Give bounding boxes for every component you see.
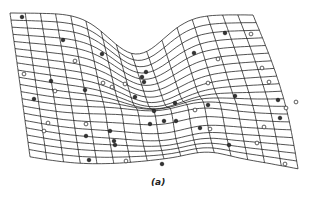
open-control-point [101,81,105,85]
filled-control-point [133,95,137,99]
filled-control-point [144,70,148,74]
filled-control-point [20,15,24,19]
filled-control-point [83,88,87,92]
open-control-point [208,127,212,131]
open-control-point [255,141,259,145]
open-control-point [42,129,46,133]
mesh-row-line [15,49,269,86]
open-control-point [124,159,128,163]
filled-control-point [113,143,117,147]
filled-control-point [108,129,112,133]
open-control-point [53,89,57,93]
filled-control-point [192,51,196,55]
filled-control-point [142,80,146,84]
mesh-column-line [162,40,198,153]
filled-control-point [223,31,227,35]
filled-control-point [61,38,65,42]
filled-control-point [173,101,177,105]
open-control-point [216,57,220,61]
open-control-point [193,108,197,112]
open-control-point [262,125,266,129]
open-control-point [284,106,288,110]
open-control-point [267,80,271,84]
filled-control-point [162,119,166,123]
filled-control-point [227,143,231,147]
filled-control-point [206,103,210,107]
open-control-point [283,162,287,166]
open-control-point [110,85,114,89]
open-control-point [123,82,127,86]
filled-control-point [112,139,116,143]
figure-caption: (a) [151,177,165,187]
warped-mesh-surface [0,0,318,202]
mesh-column-line [86,21,114,163]
mesh-row-line [20,84,282,108]
filled-control-point [100,52,104,56]
open-control-point [249,32,253,36]
filled-control-point [32,97,36,101]
open-control-point [46,121,50,125]
filled-control-point [276,98,280,102]
filled-control-point [87,158,91,162]
filled-control-point [278,116,282,120]
mesh-row-line [16,56,271,92]
filled-control-point [160,162,164,166]
mesh-column-line [116,45,147,161]
filled-control-point [198,126,202,130]
filled-control-point [174,119,178,123]
open-control-point [206,81,210,85]
open-control-point [294,100,298,104]
mesh-row-line [10,13,253,54]
filled-control-point [148,122,152,126]
open-control-point [84,122,88,126]
filled-control-point [233,94,237,98]
open-control-point [22,72,26,76]
filled-control-point [84,134,88,138]
filled-control-point [49,79,53,83]
open-control-point [260,66,264,70]
warped-mesh-figure: (a) [0,0,318,202]
filled-control-point [140,75,144,79]
filled-control-point [152,109,156,113]
open-control-point [73,59,77,63]
